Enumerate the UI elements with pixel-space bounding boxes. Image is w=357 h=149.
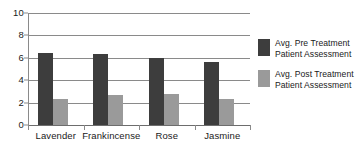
legend-label-line-2: Patient Assessment xyxy=(275,49,351,60)
y-tick-label: 4 xyxy=(0,75,24,85)
bar xyxy=(219,99,234,125)
legend-label-line-2: Patient Assessment xyxy=(275,80,354,91)
bar xyxy=(164,94,179,125)
y-tick-label: 8 xyxy=(0,31,24,41)
bar-chart-figure: 1086420 LavenderFrankincenseRoseJasmine … xyxy=(0,0,357,149)
legend-label-line-1: Avg. Post Treatment xyxy=(275,69,354,80)
legend-entry-post-treatment: Avg. Post Treatment Patient Assessment xyxy=(258,69,357,91)
x-tick-mark xyxy=(195,125,196,130)
light-square-swatch-icon xyxy=(258,70,270,87)
x-tick-mark xyxy=(28,125,29,130)
bar xyxy=(108,95,123,125)
legend-label-line-1: Avg. Pre Treatment xyxy=(275,38,351,49)
x-tick-label: Frankincense xyxy=(82,131,140,141)
x-tick-label: Jasmine xyxy=(204,131,240,141)
legend-label-post-treatment: Avg. Post Treatment Patient Assessment xyxy=(275,69,354,91)
y-tick-label: 6 xyxy=(0,53,24,63)
gridline xyxy=(28,35,250,36)
y-tick-label: 0 xyxy=(0,120,24,130)
chart-legend: Avg. Pre Treatment Patient Assessment Av… xyxy=(258,38,357,100)
bar xyxy=(38,53,53,125)
x-tick-label: Lavender xyxy=(36,131,76,141)
legend-label-pre-treatment: Avg. Pre Treatment Patient Assessment xyxy=(275,38,351,60)
legend-entry-pre-treatment: Avg. Pre Treatment Patient Assessment xyxy=(258,38,357,60)
bar xyxy=(149,58,164,125)
y-tick-label: 10 xyxy=(0,8,24,18)
x-tick-mark xyxy=(250,125,251,130)
plot-area xyxy=(28,13,250,125)
bar xyxy=(53,99,68,125)
dark-square-swatch-icon xyxy=(258,39,270,56)
bar xyxy=(93,54,108,125)
y-tick-label: 2 xyxy=(0,98,24,108)
x-axis-labels: LavenderFrankincenseRoseJasmine xyxy=(28,125,250,149)
gridline xyxy=(28,13,250,14)
x-tick-label: Rose xyxy=(155,131,178,141)
gridline xyxy=(28,58,250,59)
bar xyxy=(204,62,219,125)
x-tick-mark xyxy=(139,125,140,130)
y-axis-tick-labels: 1086420 xyxy=(0,13,24,125)
